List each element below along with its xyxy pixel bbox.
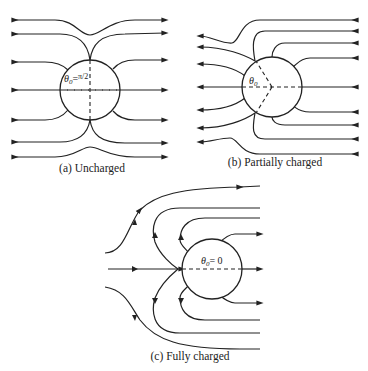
field-line — [113, 60, 165, 69]
field-line — [105, 186, 260, 253]
caption-fully-charged: (c) Fully charged — [151, 350, 230, 363]
caption-partially-charged: (b) Partially charged — [228, 156, 323, 169]
field-lines-diagram: θ0=π/2 (a) Uncharged θ0 (b) Partially ch… — [0, 0, 368, 371]
field-line — [200, 138, 355, 154]
field-line — [90, 33, 165, 60]
field-line — [272, 43, 355, 57]
panel-fully-charged: θ0= 0 (c) Fully charged — [105, 186, 260, 363]
field-line — [15, 147, 165, 157]
field-line — [113, 111, 165, 120]
field-line — [293, 106, 355, 112]
field-line — [293, 58, 355, 67]
field-line — [253, 31, 355, 61]
panel-partially-charged: θ0 (b) Partially charged — [200, 20, 355, 169]
field-line — [15, 20, 165, 35]
field-line — [200, 64, 245, 76]
field-line — [15, 34, 90, 60]
field-line — [15, 110, 68, 120]
field-line — [200, 47, 255, 61]
field-line — [15, 62, 68, 70]
field-line — [200, 98, 245, 110]
field-line — [90, 120, 165, 143]
field-line — [200, 113, 255, 128]
field-line — [272, 117, 355, 125]
panel-uncharged: θ0=π/2 (a) Uncharged — [15, 20, 165, 175]
field-line — [15, 120, 90, 142]
field-line — [105, 287, 260, 349]
caption-uncharged: (a) Uncharged — [59, 162, 125, 175]
